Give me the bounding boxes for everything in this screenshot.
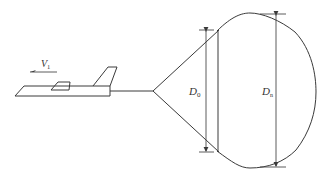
aircraft-vertical-tail	[93, 67, 117, 86]
velocity-indicator: V1	[30, 58, 57, 72]
inflated-diameter-dimension: Dn	[260, 14, 286, 167]
velocity-label: V1	[41, 58, 50, 70]
suspension-line-bottom	[153, 91, 219, 152]
nominal-diameter-dimension: D0	[188, 30, 214, 152]
suspension-line-top	[153, 30, 219, 91]
parachute-diagram: V1 D0 Dn	[0, 0, 326, 181]
dn-label: Dn	[261, 85, 273, 98]
suspension-lines	[153, 30, 219, 152]
d0-label: D0	[188, 85, 201, 99]
aircraft-fuselage	[15, 86, 110, 96]
aircraft	[15, 67, 117, 96]
